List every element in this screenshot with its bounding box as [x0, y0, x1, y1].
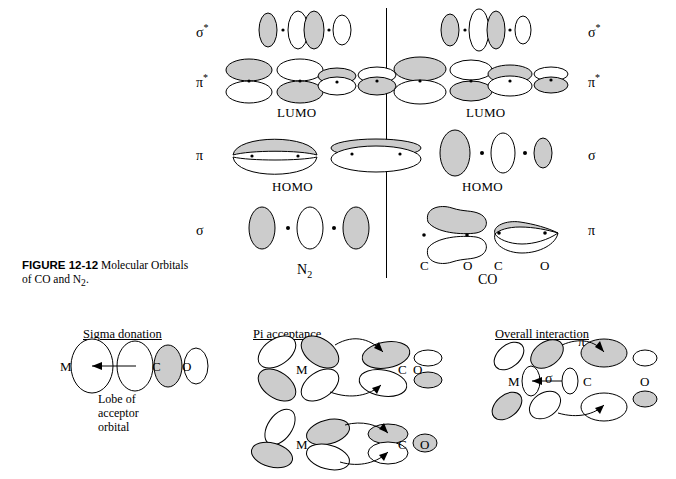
overall-interaction-atom-m: M — [508, 374, 520, 390]
overall-interaction-pi-symbol: π — [578, 334, 585, 350]
figure-molecular-orbitals-co-n2: σ* π* π σ LUMO — [0, 0, 676, 479]
overall-interaction-atom-o: O — [640, 374, 649, 390]
overall-interaction-atom-c: C — [583, 374, 592, 390]
overall-interaction-diagram — [0, 0, 676, 479]
overall-interaction-sigma-symbol: σ — [545, 371, 553, 387]
